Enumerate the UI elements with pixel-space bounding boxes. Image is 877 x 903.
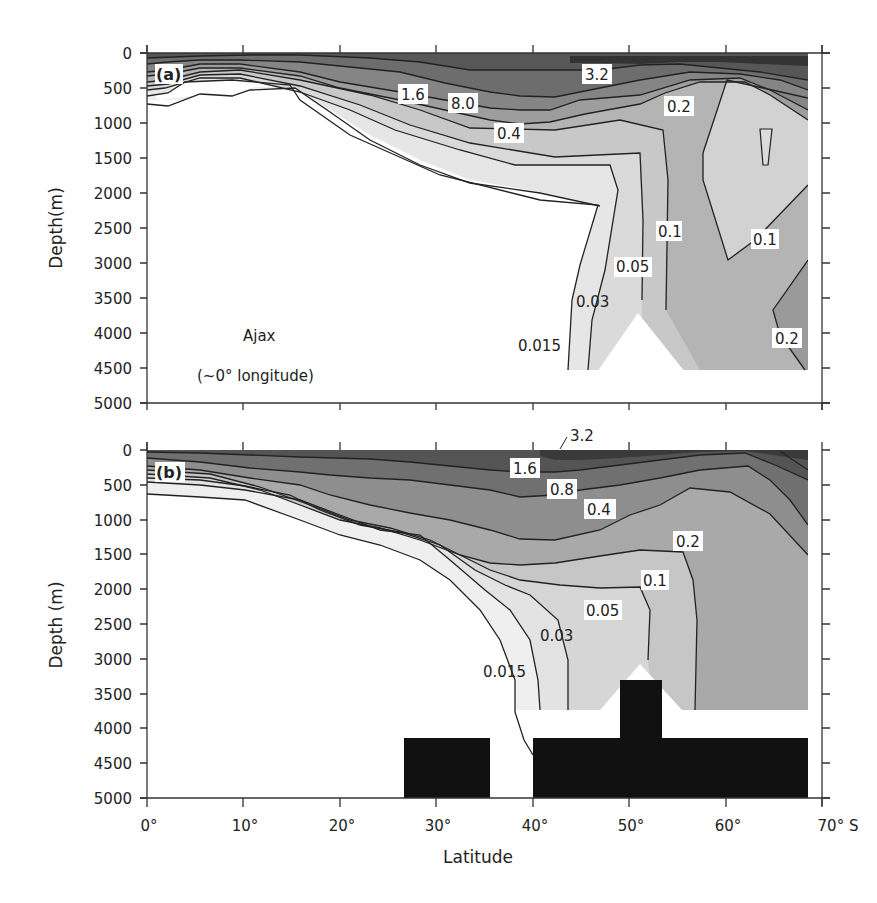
contour-label: 0.03 <box>576 293 609 311</box>
longitude-label: (~0° longitude) <box>197 367 314 385</box>
contour-label: 0.1 <box>643 572 667 590</box>
contour-label: 0.03 <box>540 627 573 645</box>
contour-label: 0.2 <box>676 533 700 551</box>
contour-label: 0.2 <box>667 98 691 116</box>
svg-text:4000: 4000 <box>94 325 132 343</box>
svg-text:30°: 30° <box>425 817 452 835</box>
svg-text:5000: 5000 <box>94 395 132 413</box>
contour-label: 0.2 <box>775 330 799 348</box>
contour-label: 0.015 <box>518 337 561 355</box>
contour-label: 1.6 <box>513 460 537 478</box>
svg-text:40°: 40° <box>522 817 549 835</box>
svg-text:60°: 60° <box>715 817 742 835</box>
panel-b: 3.2 1.6 0.8 0.4 0.2 0.1 0.05 0.03 0.015 … <box>46 427 858 867</box>
svg-text:3500: 3500 <box>94 290 132 308</box>
contour-label: 0.4 <box>587 501 611 519</box>
svg-text:1000: 1000 <box>94 115 132 133</box>
svg-text:20°: 20° <box>329 817 356 835</box>
svg-text:3000: 3000 <box>94 255 132 273</box>
contour-label: 0.4 <box>497 125 521 143</box>
contour-label: 0.1 <box>753 231 777 249</box>
svg-text:500: 500 <box>103 477 132 495</box>
svg-text:500: 500 <box>103 80 132 98</box>
svg-text:4000: 4000 <box>94 720 132 738</box>
contour-label: 0.015 <box>483 663 526 681</box>
contour-label: 0.8 <box>550 481 574 499</box>
y-axis-title-b: Depth (m) <box>46 581 66 668</box>
contour-label: 3.2 <box>570 427 594 445</box>
contour-label: 0.05 <box>616 258 649 276</box>
svg-text:1500: 1500 <box>94 546 132 564</box>
svg-text:5000: 5000 <box>94 790 132 808</box>
panel-a: 1.6 3.2 8.0 0.4 0.2 0.1 0.1 0.05 0.03 0.… <box>46 45 830 413</box>
svg-text:70° S: 70° S <box>818 817 859 835</box>
x-ticks: 0° 10° 20° 30° 40° 50° 60° 70° S <box>140 817 858 835</box>
svg-text:1000: 1000 <box>94 512 132 530</box>
contour-label: 8.0 <box>451 95 475 113</box>
panel-tag-b: (b) <box>156 463 182 482</box>
svg-text:3500: 3500 <box>94 686 132 704</box>
figure: 1.6 3.2 8.0 0.4 0.2 0.1 0.1 0.05 0.03 0.… <box>0 0 877 903</box>
svg-text:0: 0 <box>122 442 132 460</box>
contour-label: 3.2 <box>585 66 609 84</box>
svg-text:10°: 10° <box>232 817 259 835</box>
svg-text:4500: 4500 <box>94 755 132 773</box>
contour-label: 0.05 <box>586 602 619 620</box>
svg-text:0°: 0° <box>140 817 157 835</box>
y-axis-title-a: Depth(m) <box>46 187 66 269</box>
x-axis-title: Latitude <box>443 847 513 867</box>
y-ticks-a: 0 500 1000 1500 2000 2500 3000 3500 4000… <box>94 45 132 413</box>
svg-text:2500: 2500 <box>94 220 132 238</box>
svg-text:2500: 2500 <box>94 616 132 634</box>
svg-text:1500: 1500 <box>94 150 132 168</box>
contour-label: 1.6 <box>401 86 425 104</box>
svg-text:3000: 3000 <box>94 651 132 669</box>
station-label: Ajax <box>243 327 276 345</box>
svg-text:2000: 2000 <box>94 581 132 599</box>
svg-text:50°: 50° <box>618 817 645 835</box>
svg-text:0: 0 <box>122 45 132 63</box>
panel-b-contours <box>147 450 822 798</box>
panel-tag-a: (a) <box>156 65 181 84</box>
y-ticks-b: 0 500 1000 1500 2000 2500 3000 3500 4000… <box>94 442 132 808</box>
contour-label: 0.1 <box>658 223 682 241</box>
svg-text:2000: 2000 <box>94 185 132 203</box>
svg-text:4500: 4500 <box>94 360 132 378</box>
